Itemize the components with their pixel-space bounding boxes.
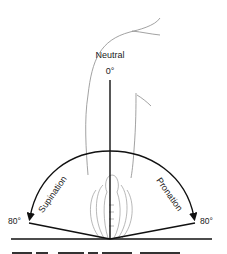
pronation-angle-label: 80° bbox=[200, 216, 213, 226]
pronation-label: Pronation bbox=[154, 176, 184, 213]
supination-limit-line bbox=[29, 223, 110, 239]
neutral-label: Neutral bbox=[95, 50, 124, 60]
hand-outline bbox=[90, 175, 132, 238]
forearm-rotation-diagram: Neutral 0° Supination Pronation 80° 80° bbox=[0, 0, 227, 254]
arm-outline bbox=[86, 18, 160, 178]
supination-label: Supination bbox=[36, 174, 69, 215]
supination-angle-label: 80° bbox=[8, 216, 21, 226]
neutral-angle-label: 0° bbox=[106, 66, 115, 76]
pronation-limit-line bbox=[110, 223, 195, 239]
